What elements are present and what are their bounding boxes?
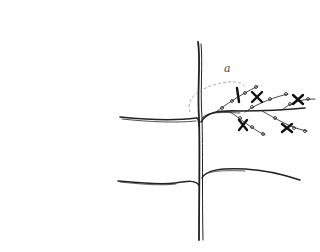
trunk — [198, 42, 203, 240]
cut-mark-x — [282, 124, 292, 132]
upper-left-branch — [120, 117, 199, 126]
angle-label: a — [224, 62, 231, 75]
cut-mark-x — [252, 92, 262, 102]
pruning-diagram: a — [0, 0, 320, 252]
angle-arc — [189, 82, 245, 112]
cut-mark-x — [293, 95, 303, 104]
lower-right-branch — [202, 169, 300, 180]
upper-right-branch — [201, 108, 305, 122]
lower-left-branch — [118, 181, 199, 185]
cut-mark-bar — [237, 88, 239, 102]
